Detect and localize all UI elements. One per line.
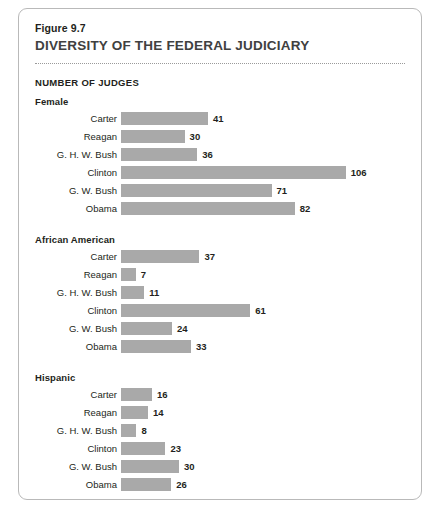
bar-category-label: Reagan <box>35 268 121 281</box>
bar-track: 106 <box>121 166 405 179</box>
bar-row: Carter41 <box>35 112 405 125</box>
chart-group-title: Female <box>35 96 405 107</box>
bar <box>121 340 191 353</box>
bar-value-label: 8 <box>141 424 146 437</box>
bar-value-label: 37 <box>204 250 215 263</box>
bar-row: Obama26 <box>35 478 405 491</box>
axis-unit-label: NUMBER OF JUDGES <box>35 77 405 88</box>
bar-category-label: Reagan <box>35 406 121 419</box>
bar <box>121 388 152 401</box>
bar <box>121 442 165 455</box>
chart-group: FemaleCarter41Reagan30G. H. W. Bush36Cli… <box>35 96 405 215</box>
bar <box>121 184 272 197</box>
bar <box>121 322 172 335</box>
bar-row: Obama82 <box>35 202 405 215</box>
chart-group-title: African American <box>35 234 405 245</box>
bar-track: 23 <box>121 442 405 455</box>
bar-category-label: Carter <box>35 112 121 125</box>
bar-row: G. H. W. Bush11 <box>35 286 405 299</box>
bar-track: 37 <box>121 250 405 263</box>
figure-title: DIVERSITY OF THE FEDERAL JUDICIARY <box>35 36 405 55</box>
bar <box>121 424 136 437</box>
bar-category-label: Carter <box>35 388 121 401</box>
bar-track: 16 <box>121 388 405 401</box>
bar-category-label: Obama <box>35 202 121 215</box>
bar <box>121 250 199 263</box>
bar-row: Clinton23 <box>35 442 405 455</box>
bar-value-label: 106 <box>351 166 367 179</box>
bar-category-label: G. W. Bush <box>35 460 121 473</box>
bar-track: 36 <box>121 148 405 161</box>
bar <box>121 478 171 491</box>
bar-value-label: 30 <box>190 130 201 143</box>
bar-value-label: 71 <box>277 184 288 197</box>
bar <box>121 130 185 143</box>
bar <box>121 112 208 125</box>
bar-value-label: 7 <box>141 268 146 281</box>
bar-track: 30 <box>121 460 405 473</box>
bar-row: Clinton106 <box>35 166 405 179</box>
bar-category-label: G. H. W. Bush <box>35 148 121 161</box>
bar-category-label: G. W. Bush <box>35 184 121 197</box>
bar-category-label: G. H. W. Bush <box>35 424 121 437</box>
bar-track: 11 <box>121 286 405 299</box>
bar-row: Reagan7 <box>35 268 405 281</box>
bar-category-label: Reagan <box>35 130 121 143</box>
bar-value-label: 61 <box>255 304 266 317</box>
bar-category-label: Obama <box>35 478 121 491</box>
bar-value-label: 26 <box>176 478 187 491</box>
bar-value-label: 11 <box>149 286 159 299</box>
bar-track: 30 <box>121 130 405 143</box>
chart-group: African AmericanCarter37Reagan7G. H. W. … <box>35 234 405 353</box>
bar <box>121 166 346 179</box>
bar-value-label: 16 <box>157 388 168 401</box>
bar <box>121 268 136 281</box>
bar-value-label: 33 <box>196 340 207 353</box>
bar-category-label: G. H. W. Bush <box>35 286 121 299</box>
bar <box>121 202 295 215</box>
bar-row: Clinton61 <box>35 304 405 317</box>
bar-row: G. H. W. Bush8 <box>35 424 405 437</box>
chart-group-title: Hispanic <box>35 372 405 383</box>
bar-value-label: 82 <box>300 202 311 215</box>
bar <box>121 406 148 419</box>
chart-group: HispanicCarter16Reagan14G. H. W. Bush8Cl… <box>35 372 405 491</box>
bar-track: 41 <box>121 112 405 125</box>
bar-category-label: Obama <box>35 340 121 353</box>
bar <box>121 304 250 317</box>
bar-track: 33 <box>121 340 405 353</box>
bar-track: 8 <box>121 424 405 437</box>
chart-panels: FemaleCarter41Reagan30G. H. W. Bush36Cli… <box>35 96 405 491</box>
bar-row: Obama33 <box>35 340 405 353</box>
bar-track: 7 <box>121 268 405 281</box>
bar-track: 71 <box>121 184 405 197</box>
bar-row: G. W. Bush71 <box>35 184 405 197</box>
title-divider <box>35 63 405 65</box>
bar-track: 82 <box>121 202 405 215</box>
bar-row: Reagan14 <box>35 406 405 419</box>
figure-card: Figure 9.7 DIVERSITY OF THE FEDERAL JUDI… <box>18 8 422 500</box>
bar-value-label: 24 <box>177 322 188 335</box>
bar-track: 24 <box>121 322 405 335</box>
bar-category-label: G. W. Bush <box>35 322 121 335</box>
bar-value-label: 36 <box>202 148 213 161</box>
bar-track: 61 <box>121 304 405 317</box>
bar-value-label: 41 <box>213 112 224 125</box>
bar-value-label: 14 <box>153 406 164 419</box>
bar-track: 14 <box>121 406 405 419</box>
bar-category-label: Clinton <box>35 304 121 317</box>
bar-category-label: Clinton <box>35 166 121 179</box>
bar-category-label: Carter <box>35 250 121 263</box>
bar-row: Reagan30 <box>35 130 405 143</box>
bar <box>121 286 144 299</box>
bar-value-label: 23 <box>170 442 181 455</box>
bar-row: G. W. Bush24 <box>35 322 405 335</box>
bar-value-label: 30 <box>184 460 195 473</box>
bar-track: 26 <box>121 478 405 491</box>
bar-row: Carter16 <box>35 388 405 401</box>
bar-row: G. H. W. Bush36 <box>35 148 405 161</box>
bar <box>121 460 179 473</box>
bar-category-label: Clinton <box>35 442 121 455</box>
figure-content: Figure 9.7 DIVERSITY OF THE FEDERAL JUDI… <box>19 9 421 491</box>
figure-number: Figure 9.7 <box>35 22 405 35</box>
